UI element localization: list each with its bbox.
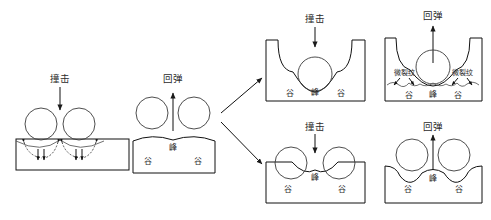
- ball-right: [438, 139, 470, 171]
- surface-label-peak: 峰: [311, 87, 319, 97]
- surface-label-peak: 峰: [429, 89, 437, 99]
- panel-1-stage-label: 撞击: [50, 73, 70, 84]
- microcrack-label-right: 微裂纹: [452, 68, 473, 77]
- surface-label-peak: 峰: [311, 172, 319, 182]
- ball-left: [136, 97, 168, 129]
- surface-label-valley-left: 谷: [286, 89, 294, 98]
- surface-label-valley-left: 谷: [144, 157, 152, 166]
- surface-label-valley-right: 谷: [455, 185, 463, 194]
- panel-4-rebound-microcracks: 回弹 微裂纹 微裂纹 谷 峰 谷: [385, 10, 482, 102]
- surface-label-peak: 峰: [429, 173, 437, 183]
- surface-label-valley-left: 谷: [284, 185, 292, 194]
- panel-1-initial-impact: 撞击: [16, 73, 129, 171]
- impact-rebound-diagram: 撞击 回弹 谷 峰 谷: [0, 0, 491, 220]
- panel-3-stage-label: 撞击: [305, 13, 325, 24]
- ball-center: [298, 57, 332, 91]
- ball-right: [63, 108, 95, 140]
- surface-label-valley-left: 谷: [405, 91, 413, 100]
- flow-arrows: [221, 78, 262, 164]
- panel-6-stage-label: 回弹: [423, 121, 443, 132]
- ball-left: [396, 139, 428, 171]
- branch-arrow-lower: [221, 122, 262, 164]
- surface-label-valley-right: 谷: [194, 157, 202, 166]
- surface-label-valley-right: 谷: [454, 91, 462, 100]
- ball-right: [178, 97, 210, 129]
- panel-3-second-impact-peak: 撞击 谷 峰 谷: [266, 13, 365, 102]
- panel-2-stage-label: 回弹: [163, 73, 183, 84]
- microcrack-label-left: 微裂纹: [394, 68, 415, 77]
- ball-left: [25, 108, 57, 140]
- panel-2-first-rebound: 回弹 谷 峰 谷: [133, 73, 215, 174]
- panel-5-impact-valleys: 撞击 谷 峰 谷: [266, 121, 365, 204]
- surface-label-valley-right: 谷: [338, 185, 346, 194]
- substrate-block-shallow-wavy: [266, 162, 365, 203]
- surface-label-valley-right: 谷: [337, 89, 345, 98]
- branch-arrow-upper: [221, 78, 262, 113]
- surface-label-peak: 峰: [169, 142, 177, 152]
- panel-4-stage-label: 回弹: [423, 10, 443, 21]
- substrate-block-deep-valley: [385, 166, 482, 203]
- panel-6-rebound-deep-valleys: 回弹 谷 峰 谷: [385, 121, 482, 204]
- surface-label-valley-left: 谷: [404, 185, 412, 194]
- panel-5-stage-label: 撞击: [305, 121, 325, 132]
